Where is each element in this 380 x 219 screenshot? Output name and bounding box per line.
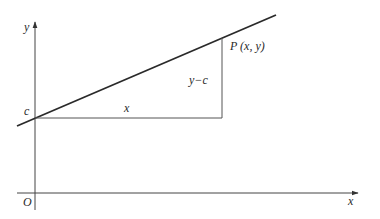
run-label: x bbox=[123, 101, 130, 115]
y-axis-label: y bbox=[23, 20, 30, 34]
straight-line bbox=[17, 15, 276, 126]
x-axis-label: x bbox=[347, 194, 354, 208]
rise-label: y−c bbox=[188, 73, 208, 87]
origin-label: O bbox=[23, 195, 32, 209]
point-label: P (x, y) bbox=[229, 39, 265, 53]
diagram-canvas: y x O c x y−c P (x, y) bbox=[0, 0, 380, 219]
intercept-label: c bbox=[24, 104, 30, 118]
